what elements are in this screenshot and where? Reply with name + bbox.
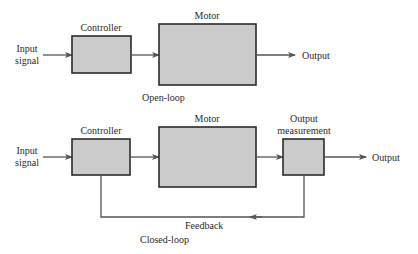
open-output-label: Output <box>302 50 330 61</box>
open-motor-block <box>159 24 256 85</box>
open-loop-diagram: Input signal Controller Motor Output Ope… <box>15 10 330 103</box>
output-measurement-block <box>283 139 324 175</box>
open-controller-label: Controller <box>80 22 122 33</box>
closed-input-label-line1: Input <box>16 145 37 156</box>
open-input-label-line1: Input <box>16 43 37 54</box>
measurement-label-line2: measurement <box>277 125 331 136</box>
closed-output-label: Output <box>372 152 400 163</box>
closed-loop-diagram: Input signal Controller Motor Output mea… <box>15 113 400 245</box>
feedback-label: Feedback <box>185 220 223 231</box>
closed-motor-block <box>159 127 256 187</box>
open-controller-block <box>72 36 131 73</box>
control-loop-diagram: Input signal Controller Motor Output Ope… <box>0 0 418 254</box>
closed-controller-block <box>72 139 130 175</box>
open-motor-label: Motor <box>195 10 221 21</box>
closed-input-label-line2: signal <box>15 157 39 168</box>
measurement-label-line1: Output <box>290 113 318 124</box>
open-loop-caption: Open-loop <box>142 92 185 103</box>
closed-controller-label: Controller <box>80 125 122 136</box>
closed-loop-caption: Closed-loop <box>140 234 189 245</box>
closed-motor-label: Motor <box>195 113 221 124</box>
open-input-label-line2: signal <box>15 55 39 66</box>
